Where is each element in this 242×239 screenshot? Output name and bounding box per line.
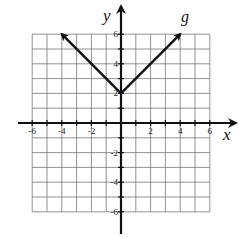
y-tick-label: -4: [111, 177, 119, 187]
x-tick-label: -4: [58, 126, 66, 136]
y-axis-label: y: [101, 6, 111, 25]
axes: [18, 6, 236, 234]
function-label-g: g: [181, 8, 189, 26]
x-tick-label: 6: [208, 126, 213, 136]
y-tick-label: -6: [111, 207, 119, 217]
x-tick-label: 4: [178, 126, 183, 136]
x-tick-label: -2: [88, 126, 96, 136]
y-tick-label: 6: [114, 29, 119, 39]
x-axis-label: x: [222, 125, 231, 144]
x-tick-label: -6: [28, 126, 36, 136]
y-tick-label: -2: [111, 148, 119, 158]
y-tick-label: 4: [114, 59, 119, 69]
graph-of-g: -6-4-2246-6-4-2246 x y g: [0, 0, 242, 239]
x-tick-label: 2: [148, 126, 153, 136]
